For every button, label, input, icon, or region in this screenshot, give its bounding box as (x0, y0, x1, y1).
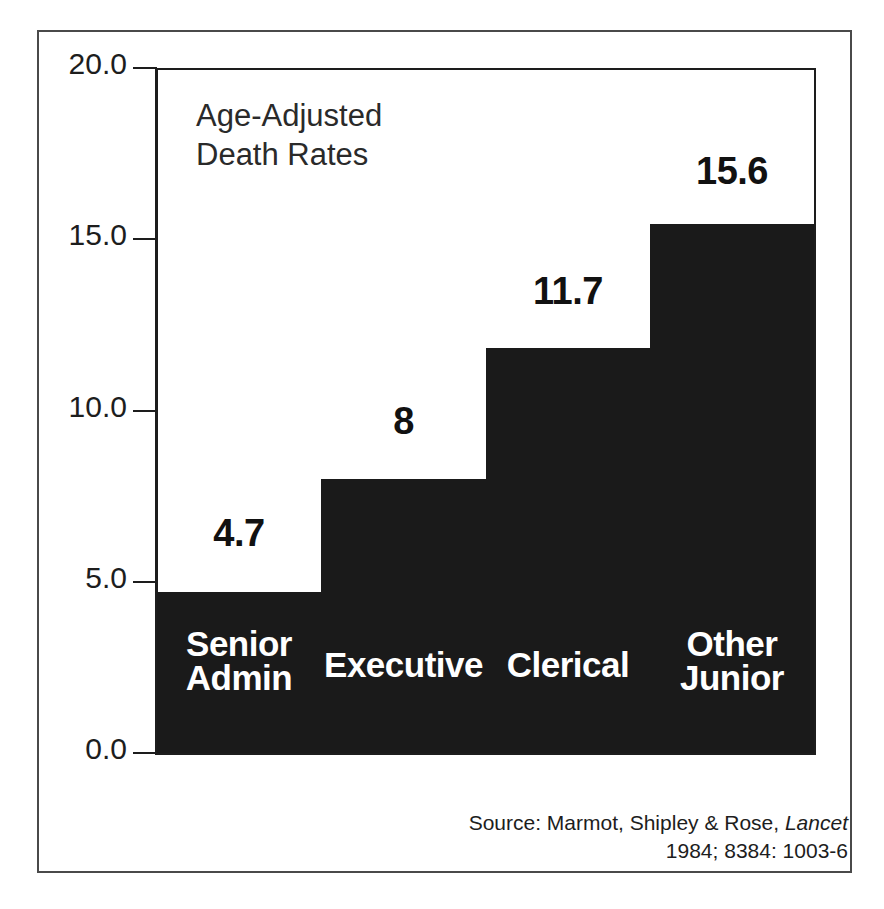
figure-root: 20.0 15.0 10.0 5.0 0.0 Age-Adjusted Deat… (0, 0, 884, 909)
y-tick-mark-20 (133, 67, 157, 69)
plot-frame-right-edge (814, 68, 816, 753)
bar-clerical[interactable] (486, 348, 650, 753)
source-note-line-2: 1984; 8384: 1003-6 (469, 837, 848, 865)
bar-label-senior-admin: Senior Admin (157, 627, 321, 696)
y-tick-label-10: 10.0 (27, 390, 127, 424)
source-note: Source: Marmot, Shipley & Rose, Lancet 1… (469, 809, 848, 865)
y-tick-mark-15 (133, 238, 157, 240)
y-tick-label-0: 0.0 (27, 732, 127, 766)
plot-frame-top-edge (155, 68, 816, 70)
y-tick-mark-10 (133, 410, 157, 412)
source-note-journal: Lancet (785, 811, 848, 834)
bar-label-other-junior: Other Junior (650, 627, 814, 696)
bar-label-executive-line-1: Executive (321, 648, 486, 682)
chart-title-line-1: Age-Adjusted (196, 96, 382, 135)
value-label-other-junior: 15.6 (650, 150, 814, 193)
bar-label-other-junior-line-2: Junior (650, 661, 814, 695)
value-label-executive: 8 (321, 400, 486, 443)
value-label-clerical: 11.7 (486, 270, 650, 313)
chart-title: Age-Adjusted Death Rates (196, 96, 382, 174)
bar-executive[interactable] (321, 479, 486, 753)
y-tick-label-5: 5.0 (27, 561, 127, 595)
source-note-line-1: Source: Marmot, Shipley & Rose, Lancet (469, 809, 848, 837)
y-tick-label-20: 20.0 (27, 47, 127, 81)
chart-title-line-2: Death Rates (196, 135, 382, 174)
y-tick-label-15: 15.0 (27, 218, 127, 252)
bar-label-senior-admin-line-1: Senior (157, 627, 321, 661)
bar-label-other-junior-line-1: Other (650, 627, 814, 661)
y-tick-mark-0 (133, 752, 157, 754)
bar-label-clerical-line-1: Clerical (486, 648, 650, 682)
bar-label-executive: Executive (321, 648, 486, 682)
y-tick-mark-5 (133, 581, 157, 583)
source-note-prefix: Source: Marmot, Shipley & Rose, (469, 811, 785, 834)
bar-label-clerical: Clerical (486, 648, 650, 682)
value-label-senior-admin: 4.7 (157, 512, 321, 555)
bar-label-senior-admin-line-2: Admin (157, 661, 321, 695)
